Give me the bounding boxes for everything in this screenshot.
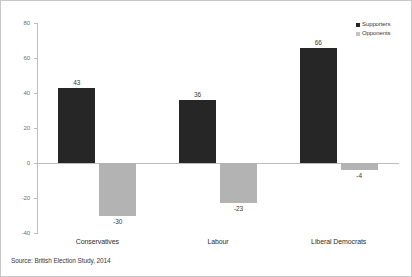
legend-label-supporters: Supporters — [362, 20, 390, 29]
y-axis-tick — [34, 128, 38, 129]
chart-legend: Supporters Opponents — [356, 20, 390, 38]
y-axis-tick — [34, 233, 38, 234]
y-axis-tick — [34, 58, 38, 59]
y-axis-tick-label: 0 — [4, 160, 30, 167]
y-axis-tick-label: 20 — [4, 125, 30, 132]
legend-item-supporters[interactable]: Supporters — [356, 20, 390, 29]
bar-supporters[interactable] — [58, 88, 95, 163]
y-axis-tick — [34, 93, 38, 94]
legend-swatch-opponents-icon — [356, 32, 360, 36]
legend-label-opponents: Opponents — [362, 29, 390, 38]
bar-supporters[interactable] — [300, 48, 337, 164]
y-axis-tick — [34, 23, 38, 24]
category-label: Liberal Democrats — [278, 237, 399, 246]
chart-figure: 806040200-20-40 43-3036-2366-4 Conservat… — [0, 0, 412, 277]
bar-value-label: 36 — [171, 91, 224, 99]
y-axis-tick-label: 40 — [4, 90, 30, 97]
y-axis-tick-label: 80 — [4, 20, 30, 27]
bar-value-label: 43 — [50, 79, 103, 87]
y-axis-tick-label: -20 — [4, 195, 30, 202]
legend-swatch-supporters-icon — [356, 23, 360, 27]
bar-opponents[interactable] — [341, 163, 378, 170]
y-axis-tick-label: -40 — [4, 230, 30, 237]
y-axis-tick — [34, 163, 38, 164]
bar-opponents[interactable] — [99, 163, 136, 216]
bar-value-label: -23 — [212, 205, 265, 213]
legend-item-opponents[interactable]: Opponents — [356, 29, 390, 38]
bar-value-label: -30 — [91, 218, 144, 226]
y-axis-tick — [34, 198, 38, 199]
bar-opponents[interactable] — [220, 163, 257, 203]
bar-supporters[interactable] — [179, 100, 216, 163]
category-label: Conservatives — [37, 237, 158, 246]
bar-value-label: -4 — [333, 172, 386, 180]
source-note: Source: British Election Study, 2014 — [11, 257, 111, 264]
bar-value-label: 66 — [292, 39, 345, 47]
y-axis-tick-label: 60 — [4, 55, 30, 62]
category-label: Labour — [158, 237, 279, 246]
